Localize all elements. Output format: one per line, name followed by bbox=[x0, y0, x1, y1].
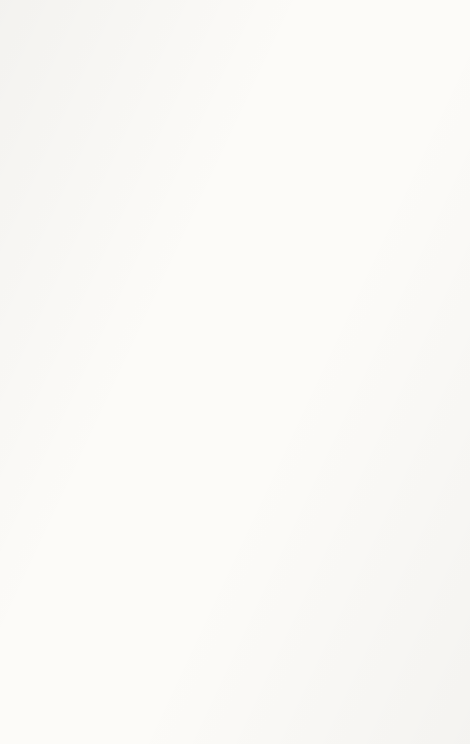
box-assistant-planners-right-1: Assistant Planners bbox=[128, 22, 174, 86]
connector-assoc-assist-left-1 bbox=[151, 436, 152, 448]
connector-sl2-assoc bbox=[402, 510, 403, 520]
source-line-3: American Society of Planning Officials, … bbox=[99, 548, 108, 720]
connector-sl1-assoc2 bbox=[184, 510, 185, 520]
connector-right-senior-bus bbox=[160, 217, 266, 218]
explanatory-note: This figure illustrates the relative lev… bbox=[22, 14, 90, 306]
box-director: Director bbox=[176, 346, 218, 442]
connector-assistant-trunk bbox=[290, 393, 330, 394]
connector-assist-tech-left-1 bbox=[140, 352, 141, 372]
connector-director-assistant bbox=[218, 393, 240, 394]
connector-assoc-assist-right-2 bbox=[409, 86, 410, 98]
box-assistant-planners-left-1: Assistant Planners bbox=[128, 372, 174, 436]
page-title-line-2: Professional Position Hierarchy bbox=[41, 517, 58, 720]
connector-assoc-assist-right-1 bbox=[151, 86, 152, 98]
connector-sr2-assoc bbox=[402, 160, 403, 170]
connector-assoc-assist-left-2 bbox=[409, 436, 410, 448]
connector-assist-tech-left-2 bbox=[409, 352, 410, 372]
box-assistant-planners-right-2: Assistant Planners bbox=[386, 22, 432, 86]
rotated-page-canvas: Illustrative Planning Department Profess… bbox=[0, 0, 470, 744]
connector-sr1-assoc-bus bbox=[122, 165, 184, 166]
level-marker-iv: IV bbox=[118, 655, 129, 668]
source-prefix: Source: bbox=[78, 691, 87, 720]
box-senior-planner-left-1: Senior Planner bbox=[118, 520, 162, 616]
box-associate-planner-left-3: Associate Planner bbox=[378, 448, 426, 510]
source-author: Lauber, bbox=[78, 663, 87, 690]
box-assistant-planners-left-2: Assistant Planners bbox=[386, 372, 432, 436]
connector-left-senior-bus bbox=[160, 567, 266, 568]
connector-right-senior-2 bbox=[306, 217, 380, 218]
figure-number-label: Figure 2–1 bbox=[14, 383, 26, 444]
box-senior-planner-right-2: Senior Planner bbox=[380, 170, 424, 266]
connector-sl1-assoc-bus bbox=[122, 515, 184, 516]
box-assistant-director: Assistant Director or Chief Planner bbox=[240, 346, 290, 442]
source-title: Job Descriptions for Planning Agencies bbox=[78, 532, 87, 663]
box-associate-planner-right-1: Associate Planner bbox=[98, 98, 146, 160]
source-line-2: (Planning Advisory Service Report No.302… bbox=[88, 575, 97, 720]
page-title-line-1: Illustrative Planning Department bbox=[20, 511, 37, 720]
connector-sr1-tap bbox=[142, 166, 143, 170]
box-associate-planner-right-2: Associate Planner bbox=[160, 98, 208, 160]
connector-sr1-assoc2 bbox=[184, 160, 185, 170]
box-associate-planner-left-1: Associate Planner bbox=[98, 448, 146, 510]
connector-left-senior-2 bbox=[306, 567, 380, 568]
box-principal-planner-left: Principal Planner bbox=[266, 520, 306, 616]
figure-sheet: Illustrative Planning Department Profess… bbox=[0, 0, 470, 744]
box-associate-planner-left-2: Associate Planner bbox=[160, 448, 208, 510]
box-senior-planner-left-2: Senior Planner bbox=[380, 520, 424, 616]
box-associate-planner-right-3: Associate Planner bbox=[378, 98, 426, 160]
box-senior-planner-right-1: Senior Planner bbox=[118, 170, 162, 266]
source-note: Source:Lauber, Job Descriptions for Plan… bbox=[78, 390, 109, 720]
box-principal-planner-right: Principal Planner bbox=[266, 170, 306, 266]
connector-principal-spine bbox=[330, 218, 331, 568]
connector-sl1-tap bbox=[142, 516, 143, 520]
